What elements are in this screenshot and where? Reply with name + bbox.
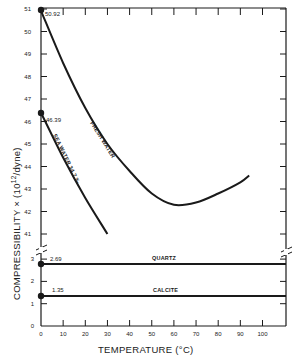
x-tick-label: 10 [60, 331, 67, 337]
y-tick-label: 47 [24, 96, 31, 102]
plot-frame [41, 8, 286, 326]
x-ticks-top [63, 8, 262, 15]
point-label-quartz: 2.69 [50, 256, 62, 262]
y-tick-label: 50 [24, 29, 31, 35]
label-sea-water: SEA WATER 34.7 ‰ [52, 133, 81, 185]
point-label-sea: 46.39 [46, 117, 62, 123]
y-tick-labels-lower: 0123 [31, 256, 35, 329]
y-tick-labels-upper: 4142434445464748495051 [24, 6, 31, 237]
y-tick-label: 46 [24, 119, 31, 125]
y-tick-label: 0 [31, 323, 35, 329]
y-axis-title: COMPRESSIBILITY × (1012/dyne) [10, 147, 22, 300]
point-calcite-0c [38, 293, 44, 299]
x-tick-label: 50 [148, 331, 155, 337]
x-tick-label: 0 [39, 331, 43, 337]
x-tick-label: 100 [257, 331, 268, 337]
compressibility-chart: 4142434445464748495051 0123 010203040506… [0, 0, 297, 360]
y-tick-label: 48 [24, 74, 31, 80]
x-tick-label: 20 [82, 331, 89, 337]
x-tick-label: 60 [171, 331, 178, 337]
y-tick-label: 1 [31, 301, 35, 307]
x-tick-labels: 0102030405060708090100 [39, 331, 268, 337]
y-tick-label: 49 [24, 51, 31, 57]
y-tick-label: 41 [24, 231, 31, 237]
x-tick-label: 70 [193, 331, 200, 337]
x-tick-label: 80 [215, 331, 222, 337]
label-quartz: QUARTZ [152, 255, 177, 261]
y-tick-label: 45 [24, 141, 31, 147]
point-fresh-0c [38, 7, 44, 13]
y-ticks-right [280, 9, 286, 304]
x-tick-label: 90 [237, 331, 244, 337]
y-tick-label: 43 [24, 186, 31, 192]
x-ticks [63, 320, 262, 326]
y-tick-label: 42 [24, 209, 31, 215]
label-fresh-water: FRESH WATER [89, 120, 116, 159]
y-tick-label: 51 [24, 6, 31, 12]
x-tick-label: 30 [104, 331, 111, 337]
label-calcite: CALCITE [153, 287, 178, 293]
x-axis-title: TEMPERATURE (°C) [98, 344, 194, 355]
point-label-calcite: 1.35 [52, 287, 64, 293]
y-tick-label: 44 [24, 164, 31, 170]
y-tick-label: 3 [31, 256, 35, 262]
point-label-fresh: 50.92 [45, 11, 61, 17]
x-tick-label: 40 [126, 331, 133, 337]
point-quartz-0c [38, 261, 44, 267]
point-sea-0c [38, 110, 44, 116]
y-tick-label: 2 [31, 278, 35, 284]
